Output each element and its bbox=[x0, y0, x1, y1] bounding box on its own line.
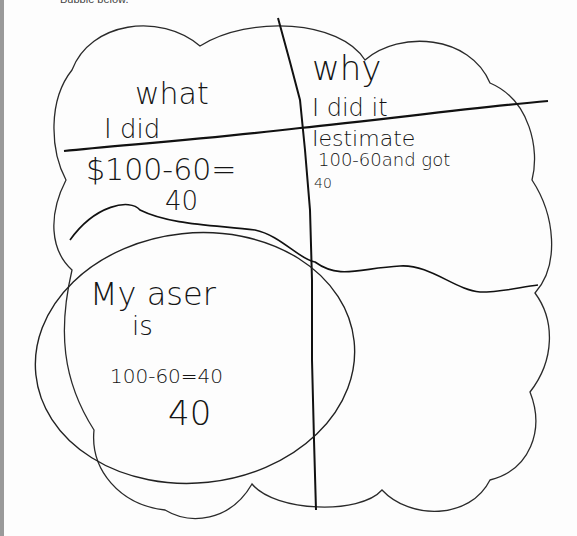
cloud-outline bbox=[54, 26, 552, 519]
answer-line-4: 40 bbox=[168, 393, 211, 433]
thinking-bubble-diagram: what I did $100-60= 40 why I did it Iest… bbox=[0, 0, 577, 536]
work-equation: $100-60= bbox=[86, 152, 236, 187]
work-result: 40 bbox=[165, 186, 198, 216]
worksheet-page: Bubble below. what I did $100-60= 40 why… bbox=[0, 0, 577, 536]
answer-circle bbox=[23, 217, 367, 499]
why-heading: why bbox=[312, 48, 381, 88]
reason-line-3: 40 bbox=[314, 175, 332, 191]
answer-line-1: My aser bbox=[90, 275, 217, 313]
answer-line-3: 100-60=40 bbox=[110, 364, 223, 388]
vertical-divider bbox=[278, 18, 316, 510]
reason-line-1: Iestimate bbox=[312, 126, 415, 151]
reason-line-2: 100-60and got bbox=[318, 149, 450, 170]
i-did-heading: I did bbox=[104, 114, 160, 144]
answer-line-2: is bbox=[132, 311, 153, 341]
what-heading: what bbox=[135, 76, 209, 111]
i-did-it-heading: I did it bbox=[312, 94, 388, 122]
